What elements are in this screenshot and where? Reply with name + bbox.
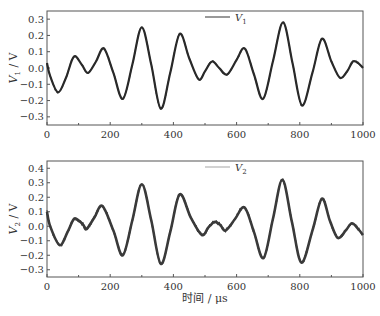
chart-v2: −0.3−0.2−0.10.00.10.20.30.4 020040060080… [7,161,376,292]
x-tick-label: 600 [227,129,246,140]
y-tick-label: −0.1 [20,79,44,90]
x-tick-label: 200 [101,281,120,292]
waveform-v1 [47,22,363,108]
x-tick-label: 800 [290,129,309,140]
y-tick-label: −0.2 [20,250,44,261]
x-tick-label: 200 [101,129,120,140]
y-tick-label: 0.4 [28,163,44,174]
x-tick-label: 0 [44,281,50,292]
y-tick-label: 0.0 [28,63,44,74]
y-tick-label: 0.2 [28,192,44,203]
x-tick-label: 1000 [350,281,375,292]
y-tick-label: 0.3 [28,14,44,25]
y-ticks: −0.3−0.2−0.10.00.10.20.3 [20,14,50,123]
x-tick-label: 600 [227,281,246,292]
y-tick-label: −0.3 [20,111,44,122]
y-tick-label: 0.1 [28,206,44,217]
legend: V1 [205,12,247,26]
x-tick-label: 800 [290,281,309,292]
y-tick-label: −0.3 [20,264,44,275]
legend-label-v2: V2 [235,162,247,176]
y-axis-title-v2: V2 / V [7,202,22,234]
y-tick-label: 0.0 [28,221,44,232]
y-tick-label: 0.1 [28,46,44,57]
x-tick-label: 400 [164,281,183,292]
x-tick-label: 1000 [350,129,375,140]
y-tick-label: 0.2 [28,30,44,41]
plot-frame [47,11,363,125]
legend: V2 [205,162,247,176]
x-tick-label: 400 [164,129,183,140]
chart-v1: −0.3−0.2−0.10.00.10.20.3 020040060080010… [7,11,376,140]
y-tick-label: −0.2 [20,95,44,106]
y-axis-title-v1: V1 / V [7,51,22,83]
y-tick-label: −0.1 [20,235,44,246]
figure: −0.3−0.2−0.10.00.10.20.3 020040060080010… [0,0,380,316]
x-axis-title: 时间 / μs [182,292,228,305]
y-ticks: −0.3−0.2−0.10.00.10.20.30.4 [20,163,50,276]
waveform-v2 [47,180,363,264]
x-tick-label: 0 [44,129,50,140]
legend-label-v1: V1 [235,12,247,26]
waveform-v2-noise [47,179,363,264]
y-tick-label: 0.3 [28,177,44,188]
